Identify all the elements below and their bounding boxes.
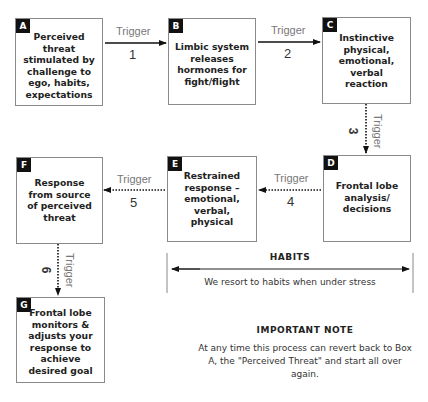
trigger-4-label: Trigger — [274, 172, 308, 184]
box-b: B Limbic system releases hormones for fi… — [168, 18, 256, 105]
box-d-text: Frontal lobe analysis/ decisions — [332, 180, 402, 215]
box-a: A Perceived threat stimulated by challen… — [15, 18, 103, 106]
trigger-2-number: 2 — [284, 46, 291, 61]
important-note-text: At any time this process can revert back… — [195, 342, 415, 381]
box-c: C Instinctive physical, emotional, verba… — [322, 17, 411, 104]
box-f-letter: F — [17, 158, 31, 172]
box-d: D Frontal lobe analysis/ decisions — [323, 155, 411, 242]
trigger-2-label: Trigger — [271, 24, 305, 36]
box-f-text: Response from source of perceived threat — [25, 177, 94, 223]
habits-subtitle: We resort to habits when under stress — [167, 277, 413, 287]
trigger-1-number: 1 — [129, 47, 136, 62]
trigger-6-label: Trigger — [64, 253, 76, 287]
trigger-5-label: Trigger — [117, 173, 151, 185]
box-d-letter: D — [324, 156, 338, 170]
trigger-3-number: 3 — [346, 128, 360, 135]
trigger-6-number: 6 — [39, 267, 53, 274]
box-c-text: Instinctive physical, emotional, verbal … — [333, 32, 400, 90]
box-e: E Restrained response – emotional, verba… — [167, 156, 257, 242]
box-b-letter: B — [169, 19, 183, 33]
box-b-text: Limbic system releases hormones for figh… — [173, 41, 251, 87]
box-g: G Frontal lobe monitors & adjusts your r… — [16, 297, 105, 383]
box-g-text: Frontal lobe monitors & adjusts your res… — [23, 307, 98, 376]
important-note-title: IMPORTANT NOTE — [195, 325, 415, 335]
trigger-4-number: 4 — [287, 194, 294, 209]
trigger-5-number: 5 — [130, 195, 137, 210]
box-a-text: Perceived threat stimulated by challenge… — [20, 31, 98, 100]
box-e-text: Restrained response – emotional, verbal,… — [174, 170, 250, 228]
box-e-letter: E — [168, 157, 182, 171]
box-f: F Response from source of perceived thre… — [16, 157, 103, 244]
trigger-3-label: Trigger — [372, 114, 384, 148]
trigger-1-label: Trigger — [116, 25, 150, 37]
habits-title: HABITS — [167, 252, 413, 262]
box-c-letter: C — [323, 18, 337, 32]
